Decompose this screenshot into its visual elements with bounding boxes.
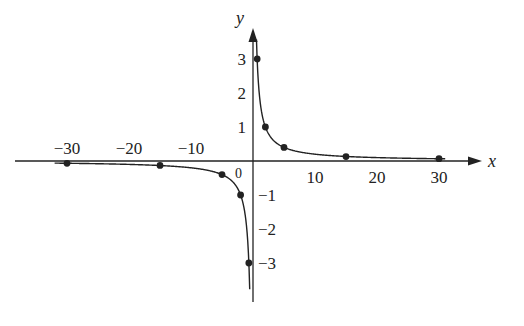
data-point: [157, 162, 164, 169]
y-tick-label: 1: [238, 118, 247, 137]
data-point: [281, 144, 288, 151]
y-tick-label: 2: [238, 84, 247, 103]
data-point: [262, 124, 269, 131]
origin-label: 0: [235, 166, 242, 181]
y-tick-label: 3: [238, 50, 247, 69]
x-axis: x: [15, 151, 496, 171]
x-tick-label: −30: [54, 139, 81, 158]
data-point: [245, 260, 252, 267]
x-tick-label: −20: [116, 139, 143, 158]
y-tick-label: −1: [258, 186, 276, 205]
y-tick-label: −3: [258, 254, 276, 273]
data-point: [436, 155, 443, 162]
curve-branch: [55, 163, 250, 289]
y-tick-label: −2: [258, 220, 276, 239]
x-tick-label: −10: [178, 139, 205, 158]
data-point: [64, 160, 71, 167]
curves: [55, 40, 446, 290]
x-tick-labels: −30−20−10102030: [54, 139, 448, 187]
data-point: [343, 153, 350, 160]
x-tick-label: 30: [431, 168, 448, 187]
x-axis-label: x: [487, 151, 496, 171]
hyperbola-chart: x y 0 −30−20−10102030 321−1−2−3: [0, 0, 524, 326]
x-tick-label: 10: [307, 168, 324, 187]
data-point: [254, 56, 261, 63]
data-point: [237, 192, 244, 199]
x-axis-arrow-icon: [468, 157, 482, 166]
curve-branch: [256, 40, 445, 159]
x-tick-label: 20: [369, 168, 386, 187]
y-axis-label: y: [234, 8, 244, 28]
data-point: [219, 171, 226, 178]
